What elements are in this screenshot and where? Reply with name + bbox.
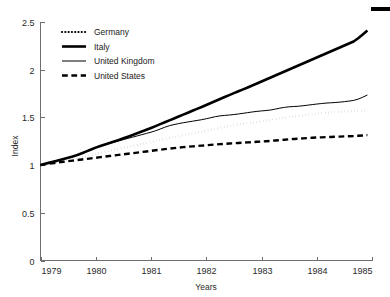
y-tick-label: 2.5 [22,18,35,28]
chart-canvas: 00.511.522.5 197919801981198219831984198… [0,0,390,297]
chart-background [0,0,390,297]
y-tick-label: 2 [29,66,34,76]
x-tick-label: 1984 [307,266,327,276]
x-tick-label: 1980 [86,266,106,276]
x-tick-label: 1979 [42,266,62,276]
x-axis-title: Years [195,282,216,292]
legend-label-united-states: United States [94,71,145,81]
y-tick-label: 0 [29,257,34,267]
y-tick-label: 1.5 [22,113,35,123]
legend-label-united-kingdom: United Kingdom [94,56,154,66]
x-tick-label: 1981 [141,266,161,276]
legend-label-germany: Germany [94,27,130,37]
y-tick-label: 0.5 [22,209,35,219]
y-axis-title: Index [10,135,20,157]
x-tick-label: 1985 [352,266,372,276]
y-tick-label: 1 [29,161,34,171]
line-chart: 00.511.522.5 197919801981198219831984198… [0,0,390,297]
top-right-edge-mark [371,7,390,11]
x-tick-label: 1983 [252,266,272,276]
x-tick-label: 1982 [196,266,216,276]
legend-label-italy: Italy [94,42,110,52]
